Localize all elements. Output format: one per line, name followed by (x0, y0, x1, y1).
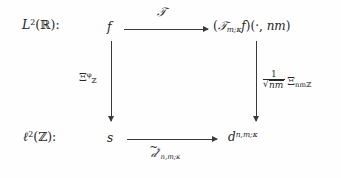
row-label-top: L2(ℝ): (22, 19, 60, 32)
bottom-arrow-label: ~𝒹*n,m;κ (151, 148, 181, 159)
operator-script-T: 𝒯 (218, 19, 227, 33)
top-arrow-label: 𝒯 (157, 6, 166, 18)
node-bottom-right-base: d (228, 130, 236, 144)
left-arrow-label-subscript: ℤ (92, 77, 97, 85)
node-bottom-right: dn,m;κ (228, 131, 258, 143)
bottom-arrow (127, 139, 217, 140)
top-arrow (124, 29, 208, 30)
sqrt-radicand: nm (269, 80, 284, 90)
fraction-numerator: 1 (263, 70, 285, 78)
right-arrow-label-base: Ξ (287, 75, 295, 88)
right-arrow-label: 1nmΞnmℤ (263, 70, 311, 90)
bottom-arrow-label-subscript: n,m;κ (160, 153, 180, 161)
bottom-arrow-label-accented-base: ~𝒹 (151, 148, 157, 159)
left-arrow-label-base: Ξ (79, 71, 87, 84)
tilde-accent-icon: ~ (150, 142, 158, 152)
operator-subscript: m;κ (227, 25, 242, 34)
commutative-diagram-figure: L2(ℝ): ℓ2(ℤ): f s (𝒯m;κf)(·, nm) dn,m;κ … (0, 0, 341, 178)
sqrt-icon: nm (264, 80, 284, 90)
node-bottom-left: s (107, 132, 113, 144)
row-label-bottom-domain: (ℤ): (33, 129, 56, 144)
row-label-bottom: ℓ2(ℤ): (23, 131, 56, 144)
right-arrow-label-subscript: nmℤ (295, 81, 311, 89)
second-argument: nm (267, 19, 286, 33)
comma-separator: , (259, 19, 267, 33)
paren-close-group: )( (246, 19, 255, 33)
right-arrow (256, 41, 257, 121)
fraction-denominator: nm (263, 80, 285, 90)
left-arrow (111, 41, 112, 121)
row-label-top-domain: (ℝ): (35, 17, 59, 32)
node-bottom-right-superscript: n,m;κ (236, 130, 258, 139)
paren-close: ) (286, 19, 291, 33)
node-top-right: (𝒯m;κf)(·, nm) (213, 20, 290, 32)
left-arrow-label: Ξφℤ (79, 72, 97, 83)
right-arrow-label-fraction: 1nm (263, 70, 285, 90)
node-top-left: f (107, 21, 112, 34)
